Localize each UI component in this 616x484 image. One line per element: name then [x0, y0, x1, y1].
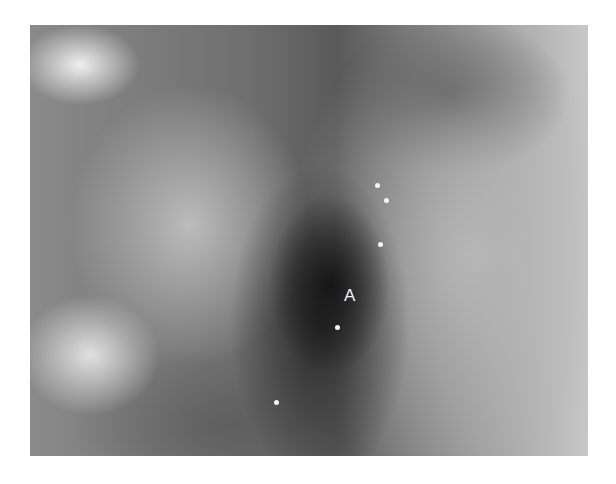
light-reflection [378, 242, 383, 247]
light-reflection [335, 325, 340, 330]
annotation-label: A [344, 286, 355, 306]
light-reflection [384, 198, 389, 203]
light-reflection [274, 400, 279, 405]
endoscopic-photo [30, 25, 588, 456]
light-reflection [375, 183, 380, 188]
